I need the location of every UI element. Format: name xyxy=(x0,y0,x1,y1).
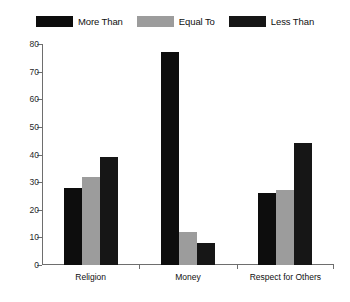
legend-swatch-more-than xyxy=(36,16,73,27)
x-label-respect-for-others: Respect for Others xyxy=(250,272,321,282)
legend-entry-more-than: More Than xyxy=(36,16,123,27)
bar xyxy=(197,243,215,265)
y-axis-line xyxy=(42,44,43,265)
legend-swatch-equal-to xyxy=(137,16,174,27)
y-tick-label: 70 xyxy=(30,67,39,76)
y-tick-label: 20 xyxy=(30,205,39,214)
plot-area: 01020304050607080 xyxy=(42,44,334,265)
x-tick-mark xyxy=(139,265,140,269)
bar-group-money xyxy=(161,44,215,265)
y-tick-label: 60 xyxy=(30,95,39,104)
y-tick-label: 50 xyxy=(30,122,39,131)
legend-entry-equal-to: Equal To xyxy=(137,16,215,27)
y-tick-label: 0 xyxy=(34,261,39,270)
y-tick-label: 80 xyxy=(30,40,39,49)
x-tick-mark xyxy=(333,265,334,269)
legend-entry-less-than: Less Than xyxy=(229,16,314,27)
legend-label-equal-to: Equal To xyxy=(179,16,215,27)
bar-group-respect-for-others xyxy=(258,44,312,265)
x-label-religion: Religion xyxy=(75,272,106,282)
bar-chart: More Than Equal To Less Than 01020304050… xyxy=(0,0,350,302)
y-tick-label: 10 xyxy=(30,233,39,242)
legend-label-more-than: More Than xyxy=(78,16,123,27)
bar xyxy=(294,143,312,265)
bar-group-religion xyxy=(64,44,118,265)
chart-legend: More Than Equal To Less Than xyxy=(0,12,350,30)
bar xyxy=(64,188,82,265)
bar xyxy=(161,52,179,265)
y-tick-label: 30 xyxy=(30,178,39,187)
bar xyxy=(258,193,276,265)
y-tick-label: 40 xyxy=(30,150,39,159)
bar xyxy=(82,177,100,265)
legend-swatch-less-than xyxy=(229,16,266,27)
bar xyxy=(276,190,294,265)
x-tick-mark xyxy=(237,265,238,269)
legend-label-less-than: Less Than xyxy=(271,16,314,27)
x-label-money: Money xyxy=(175,272,201,282)
bar xyxy=(179,232,197,265)
bar xyxy=(100,157,118,265)
